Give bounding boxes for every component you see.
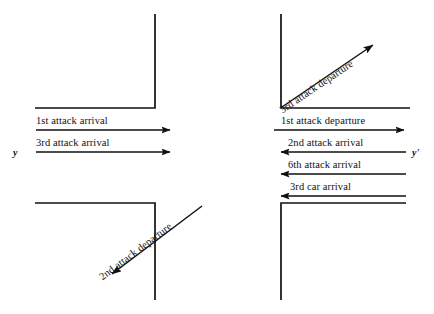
arrow-2nd-attack-arrival-label: 2nd attack arrival <box>288 138 363 149</box>
arrow-3rd-attack-arrival-label: 3rd attack arrival <box>36 138 110 149</box>
arrow-1st-attack-arrival-label: 1st attack arrival <box>36 116 108 127</box>
arrow-1st-attack-departure-label: 1st attack departure <box>281 116 365 127</box>
worldline-top-left <box>35 14 155 108</box>
arrow-6th-attack-arrival-label: 6th attack arrival <box>288 160 361 171</box>
diagram-canvas <box>0 0 434 314</box>
y-axis-label: y <box>13 148 18 158</box>
worldline-bottom-right <box>281 203 406 300</box>
arrow-3rd-car-arrival-label: 3rd car arrival <box>290 182 351 193</box>
spacetime-diagram: y y' 1st attack arrival 3rd attack arriv… <box>0 0 434 314</box>
y-prime-axis-label: y' <box>412 148 419 158</box>
